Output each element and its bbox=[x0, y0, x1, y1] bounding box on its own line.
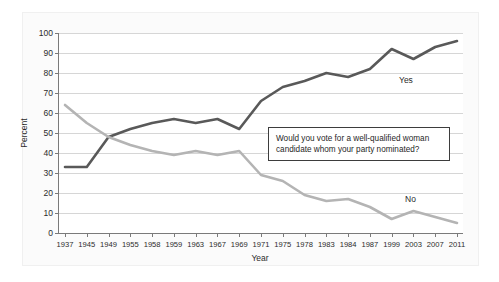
x-axis-tick-label: 1958 bbox=[144, 240, 161, 249]
x-axis-tick-mark bbox=[152, 233, 153, 237]
x-axis-tick-mark bbox=[217, 233, 218, 237]
x-axis-tick-mark bbox=[348, 233, 349, 237]
x-axis-tick-label: 1969 bbox=[231, 240, 248, 249]
series-line-no bbox=[65, 105, 457, 223]
y-axis-tick-label: 50 bbox=[44, 128, 53, 138]
y-axis-tick-label: 0 bbox=[48, 228, 53, 238]
x-axis-tick-mark bbox=[109, 233, 110, 237]
y-axis-tick-label: 70 bbox=[44, 88, 53, 98]
x-axis-tick-mark bbox=[283, 233, 284, 237]
x-axis-tick-mark bbox=[87, 233, 88, 237]
x-axis-tick-label: 2011 bbox=[449, 240, 465, 249]
question-callout-box: Would you vote for a well-qualified woma… bbox=[268, 127, 450, 161]
x-axis-tick-mark bbox=[174, 233, 175, 237]
y-axis-tick-label: 60 bbox=[44, 108, 53, 118]
x-axis-tick-label: 1945 bbox=[78, 240, 95, 249]
x-axis-tick-label: 2003 bbox=[405, 240, 422, 249]
x-axis-tick-label: 1987 bbox=[361, 240, 378, 249]
x-axis-tick-label: 1959 bbox=[165, 240, 182, 249]
x-axis-tick-mark bbox=[130, 233, 131, 237]
y-axis-tick-label: 100 bbox=[39, 28, 53, 38]
y-axis-tick-label: 40 bbox=[44, 148, 53, 158]
x-axis-tick-label: 1963 bbox=[187, 240, 204, 249]
x-axis-tick-label: 1971 bbox=[253, 240, 270, 249]
x-axis-tick-mark bbox=[435, 233, 436, 237]
y-axis-tick-label: 30 bbox=[44, 168, 53, 178]
x-axis-tick-mark bbox=[261, 233, 262, 237]
x-axis-tick-label: 2007 bbox=[427, 240, 444, 249]
x-axis-tick-mark bbox=[413, 233, 414, 237]
x-axis-tick-mark bbox=[305, 233, 306, 237]
series-label-no: No bbox=[405, 194, 416, 204]
x-axis-tick-mark bbox=[326, 233, 327, 237]
y-axis-tick-label: 20 bbox=[44, 188, 53, 198]
x-axis-tick-label: 1967 bbox=[209, 240, 226, 249]
x-axis-tick-mark bbox=[392, 233, 393, 237]
x-axis-tick-mark bbox=[239, 233, 240, 237]
x-axis-tick-label: 1978 bbox=[296, 240, 313, 249]
x-axis-tick-mark bbox=[370, 233, 371, 237]
y-axis-tick-label: 80 bbox=[44, 68, 53, 78]
x-axis-tick-label: 1937 bbox=[57, 240, 74, 249]
chart-figure: Percent Year 0102030405060708090100 1937… bbox=[0, 0, 499, 282]
x-axis-tick-label: 1984 bbox=[340, 240, 357, 249]
y-axis-title: Percent bbox=[19, 118, 29, 147]
x-axis-tick-label: 1949 bbox=[100, 240, 117, 249]
x-axis-tick-label: 1983 bbox=[318, 240, 335, 249]
y-axis-tick-mark bbox=[55, 233, 59, 234]
x-axis-tick-mark bbox=[65, 233, 66, 237]
y-axis-tick-label: 90 bbox=[44, 48, 53, 58]
x-axis-tick-label: 1975 bbox=[274, 240, 291, 249]
series-label-yes: Yes bbox=[399, 75, 413, 85]
x-axis-tick-mark bbox=[196, 233, 197, 237]
x-axis-tick-label: 1955 bbox=[122, 240, 139, 249]
y-axis-tick-label: 10 bbox=[44, 208, 53, 218]
question-callout-text: Would you vote for a well-qualified woma… bbox=[276, 134, 429, 154]
x-axis-tick-mark bbox=[457, 233, 458, 237]
x-axis-tick-label: 1999 bbox=[383, 240, 400, 249]
x-axis-title: Year bbox=[251, 253, 268, 263]
